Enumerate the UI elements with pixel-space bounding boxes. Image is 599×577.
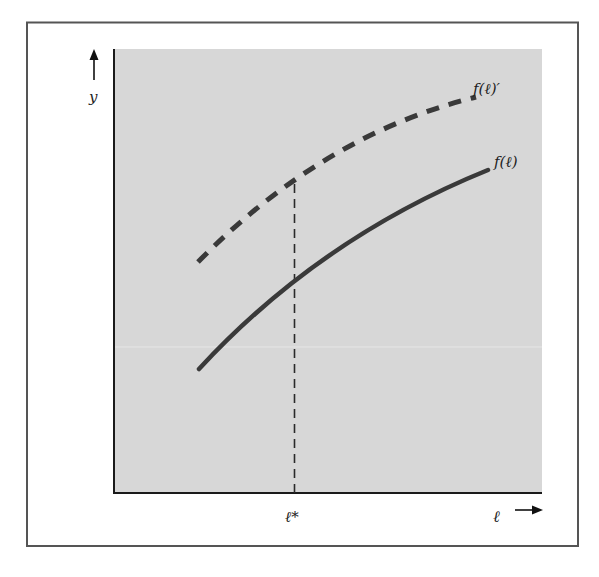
y-axis-label: y: [88, 88, 98, 106]
l-star-label: ℓ*: [285, 508, 299, 526]
curve-label-f-l-prime: f(ℓ)′: [472, 80, 501, 98]
curve-label-f-l: f(ℓ): [493, 153, 518, 171]
production-function-diagram: y ℓ ℓ* f(ℓ)′ f(ℓ): [0, 0, 599, 577]
plot-area: [114, 49, 542, 493]
x-axis-label: ℓ: [493, 507, 500, 526]
